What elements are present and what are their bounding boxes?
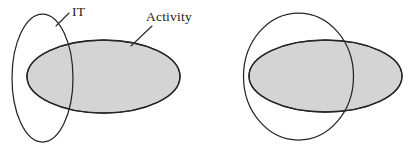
venn-figure-root: IT Activity — [0, 0, 411, 159]
diagram-left: IT Activity — [12, 4, 192, 142]
activity-leader-line — [131, 26, 152, 46]
diagram-right — [244, 13, 403, 140]
activity-label: Activity — [146, 9, 192, 24]
it-label: IT — [72, 4, 86, 19]
venn-diagram-canvas: IT Activity — [0, 0, 411, 159]
it-leader-line — [56, 13, 69, 26]
